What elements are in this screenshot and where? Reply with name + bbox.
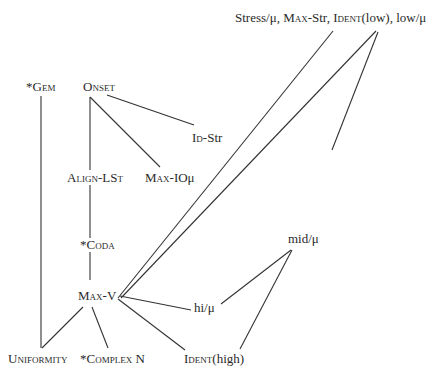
ident-low-rest: (low), low/μ (362, 10, 426, 25)
node-max-v: Max-V (78, 289, 116, 303)
edge-maxv-uniformity (42, 307, 83, 348)
mid-mu-label: mid/μ (288, 231, 319, 246)
coda-label: Coda (87, 237, 115, 252)
max-str-sc: Max (283, 10, 308, 25)
node-ident-high: Ident(high) (184, 352, 244, 366)
align-lst-label: Align-LSt (67, 170, 123, 185)
edge-lowmu-maxv (121, 31, 376, 298)
node-mid-mu: mid/μ (288, 232, 319, 246)
node-complex-n: *Complex N (80, 352, 145, 366)
ident-high-sc: Ident (184, 351, 212, 366)
onset-label: Onset (83, 79, 115, 94)
id-str-rest: -Str (203, 130, 223, 145)
node-align-lst: Align-LSt (67, 171, 123, 185)
max-io-rest: -IOμ (170, 170, 195, 185)
edge-lowmu-midmu (332, 32, 378, 150)
node-gem: *Gem (26, 80, 55, 94)
uniformity-label: Uniformity (8, 351, 67, 366)
complex-n-sc: Complex (87, 351, 133, 366)
max-v-rest: -V (103, 288, 117, 303)
ident-low-sc: Ident (333, 10, 361, 25)
hi-mu-label: hi/μ (194, 300, 215, 315)
node-onset: Onset (83, 80, 115, 94)
edge-onset-maxio (90, 97, 160, 167)
gem-label: Gem (33, 79, 56, 94)
max-str-rest: -Str, (308, 10, 333, 25)
complex-n-rest: N (132, 351, 145, 366)
node-uniformity: Uniformity (8, 352, 67, 366)
edge-midmu-identhigh (240, 250, 292, 349)
ident-high-rest: (high) (212, 351, 244, 366)
node-max-io: Max-IOμ (145, 171, 195, 185)
node-stress-group: Stress/μ, Max-Str, Ident(low), low/μ (235, 11, 426, 25)
edge-onset-idstr (107, 95, 194, 125)
edge-maxv-complexn (92, 307, 108, 348)
max-v-sc: Max (78, 288, 103, 303)
edge-midmu-himu (221, 250, 291, 304)
max-io-sc: Max (145, 170, 170, 185)
edge-identlow-maxv (118, 31, 333, 298)
node-coda: *Coda (80, 238, 115, 252)
node-id-str: Id-Str (192, 131, 222, 145)
stress-mu-label: Stress/μ, (235, 10, 283, 25)
id-str-sc: Id (192, 130, 203, 145)
edge-maxv-himu (120, 296, 191, 310)
node-hi-mu: hi/μ (194, 301, 215, 315)
